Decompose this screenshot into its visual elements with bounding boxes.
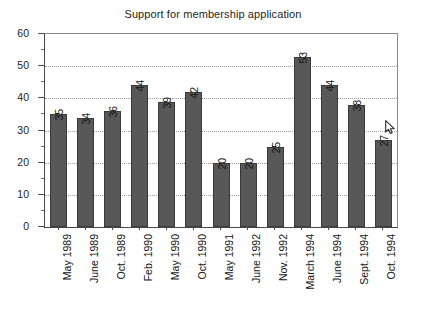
bar-value-label: 27 (378, 135, 389, 147)
x-axis-tick (247, 226, 248, 230)
x-axis-tick (112, 226, 113, 230)
y-axis-tick-label: 10 (17, 189, 29, 200)
x-axis: May 1989June 1989Oct. 1989Feb. 1990May 1… (44, 226, 396, 314)
bar (131, 85, 148, 227)
y-axis-tick-label: 20 (17, 156, 29, 167)
x-axis-tick-label: Oct. 1989 (116, 234, 127, 280)
bar-value-label: 20 (216, 157, 227, 169)
bar (348, 105, 365, 227)
chart-figure: Support for membership application 01020… (0, 0, 426, 314)
x-axis-tick-label: May 1990 (170, 234, 181, 280)
bar-series: 35343644394220202553443827 (45, 34, 397, 227)
chart-title: Support for membership application (0, 8, 426, 20)
bar-value-label: 35 (54, 109, 65, 121)
bar (185, 92, 202, 227)
x-axis-tick (85, 226, 86, 230)
bar (50, 114, 67, 227)
y-axis-tick-label: 60 (17, 28, 29, 39)
bar (240, 163, 257, 227)
x-axis-tick (193, 226, 194, 230)
x-axis-tick-label: May 1989 (62, 234, 73, 280)
y-axis-tick-label: 50 (17, 60, 29, 71)
bar (267, 147, 284, 227)
bar-value-label: 44 (324, 80, 335, 92)
bar-value-label: 34 (81, 112, 92, 124)
bar (77, 118, 94, 227)
y-axis-tick-label: 40 (17, 92, 29, 103)
x-axis-tick (301, 226, 302, 230)
y-axis-tick-label: 0 (23, 221, 29, 232)
bar-value-label: 44 (135, 80, 146, 92)
x-axis-tick-label: Nov. 1992 (278, 234, 289, 281)
x-axis-tick (274, 226, 275, 230)
bar (104, 111, 121, 227)
x-axis-tick (166, 226, 167, 230)
x-axis-tick-label: Sept. 1994 (359, 234, 370, 285)
bar-value-label: 53 (297, 51, 308, 63)
x-axis-tick-label: Feb. 1990 (143, 234, 154, 281)
x-axis-tick (220, 226, 221, 230)
bar (158, 102, 175, 227)
bar-value-label: 20 (243, 157, 254, 169)
bar (213, 163, 230, 227)
bar (294, 57, 311, 227)
bar (375, 140, 392, 227)
bar-value-label: 25 (270, 141, 281, 153)
bar-value-label: 36 (108, 106, 119, 118)
plot-area: 35343644394220202553443827 (44, 33, 398, 228)
bar-value-label: 42 (189, 87, 200, 99)
y-axis-tick-label: 30 (17, 124, 29, 135)
x-axis-tick (139, 226, 140, 230)
x-axis-tick-label: Oct. 1990 (197, 234, 208, 280)
x-axis-tick (382, 226, 383, 230)
bar-value-label: 39 (162, 96, 173, 108)
x-axis-tick-label: March 1994 (305, 234, 316, 289)
x-axis-tick (355, 226, 356, 230)
x-axis-tick-label: June 1992 (251, 234, 262, 283)
bar (321, 85, 338, 227)
x-axis-tick-label: June 1994 (332, 234, 343, 283)
y-axis: 0102030405060 (0, 33, 38, 226)
x-axis-tick-label: June 1989 (89, 234, 100, 283)
x-axis-tick-label: Oct. 1994 (386, 234, 397, 280)
x-axis-tick (328, 226, 329, 230)
bar-value-label: 38 (351, 100, 362, 112)
x-axis-tick (58, 226, 59, 230)
x-axis-tick-label: May 1991 (224, 234, 235, 280)
